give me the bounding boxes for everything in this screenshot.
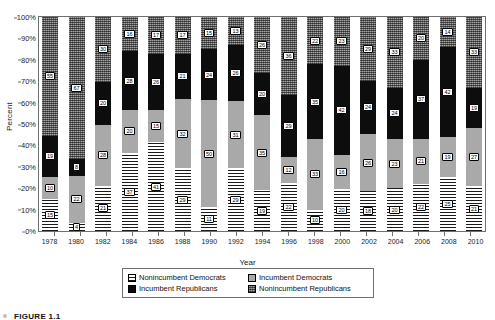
bar-segment-id: 26	[360, 134, 376, 191]
x-axis-tick-label: 2010	[468, 238, 484, 250]
bar-segment-value-label: 17	[177, 31, 187, 39]
x-axis-tick-label: 1996	[281, 238, 297, 250]
bar-segment-value-label: 35	[257, 149, 267, 157]
bar-segment-value-label: 20	[416, 34, 426, 42]
stacked-bar[interactable]: 36291222	[281, 17, 297, 231]
x-axis-tick-label: 1990	[201, 238, 217, 250]
bar-segment-nir: 36	[281, 17, 297, 95]
bar-segment-nid: 21	[95, 186, 111, 231]
bar-segment-nir: 15	[201, 17, 217, 49]
bar-segment-value-label: 26	[151, 78, 161, 86]
stacked-bar[interactable]: 30202821	[95, 17, 111, 231]
legend-label-incumbent-democrats: Incumbent Democrats	[259, 272, 332, 283]
bar-segment-value-label: 28	[124, 77, 134, 85]
bar-segment-value-label: 26	[257, 41, 267, 49]
y-axis-tick-label: 20%	[21, 184, 36, 193]
legend-row: Incumbent Republicans Nonincumbent Repub…	[128, 283, 368, 294]
bar-segment-value-label: 21	[416, 157, 426, 165]
stacked-bar[interactable]: 22353310	[307, 17, 323, 231]
legend-label-nonincumbent-republicans: Nonincumbent Republicans	[259, 283, 351, 294]
stacked-bar[interactable]: 16282037	[122, 17, 138, 231]
bar-segment-value-label: 29	[177, 196, 187, 204]
x-axis-tick-label: 1988	[175, 238, 191, 250]
x-axis-tick-mark	[132, 232, 133, 236]
stacked-bar[interactable]: 29242618	[360, 17, 376, 231]
bar-segment-ir: 37	[413, 60, 429, 139]
x-axis-tick-mark	[236, 232, 237, 236]
legend-item-nonincumbent-democrats: Nonincumbent Democrats	[128, 272, 248, 283]
bar-segment-nir: 33	[466, 17, 482, 88]
x-axis-tick-mark	[184, 232, 185, 236]
y-axis-tick-label: 80%	[21, 55, 36, 64]
bar-segment-id: 16	[334, 155, 350, 189]
bar-segment-value-label: 14	[442, 28, 452, 36]
bar-segment-value-label: 19	[257, 207, 267, 215]
bar-segment-nid: 11	[201, 207, 217, 231]
bar-segment-id: 23	[387, 139, 403, 188]
bar-segment-value-label: 29	[283, 122, 293, 130]
stacked-bar[interactable]: 678224	[69, 17, 85, 231]
bar-segment-nid: 25	[440, 177, 456, 231]
y-axis-tick-mark	[18, 124, 21, 125]
y-axis-tick-mark	[18, 38, 21, 39]
bar-segment-value-label: 4	[73, 223, 80, 231]
bar-segment-value-label: 24	[204, 71, 214, 79]
bar-segment-value-label: 26	[230, 69, 240, 77]
stacked-bar[interactable]: 33192721	[466, 17, 482, 231]
stacked-bar[interactable]: 26203519	[254, 17, 270, 231]
bar-segment-value-label: 17	[151, 31, 161, 39]
chart-legend: Nonincumbent Democrats Incumbent Democra…	[122, 268, 374, 298]
stacked-bar[interactable]: 13263129	[228, 17, 244, 231]
bar-segment-nid: 29	[175, 168, 191, 231]
bar-segment-id: 10	[42, 177, 58, 199]
bar-segment-value-label: 8	[73, 163, 80, 171]
bar-segment-nir: 67	[69, 17, 85, 159]
bar-segment-value-label: 31	[230, 131, 240, 139]
bar-segment-value-label: 36	[283, 52, 293, 60]
stacked-bar[interactable]: 15245011	[201, 17, 217, 231]
stacked-bar[interactable]: 17213229	[175, 17, 191, 231]
stacked-bar[interactable]: 14421925	[440, 17, 456, 231]
bar-segment-ir: 21	[175, 54, 191, 99]
x-axis-tick-mark	[392, 232, 393, 236]
bar-segment-value-label: 20	[98, 99, 108, 107]
bar-segment-value-label: 37	[124, 188, 134, 196]
bar-segment-value-label: 37	[416, 95, 426, 103]
bar-segment-id: 12	[281, 157, 297, 183]
bar-segment-nir: 17	[175, 17, 191, 54]
x-axis-tick-mark	[444, 232, 445, 236]
stacked-bar[interactable]: 23421620	[334, 17, 350, 231]
bar-segment-nir: 55	[42, 17, 58, 136]
bar-segment-value-label: 22	[71, 195, 81, 203]
bar-segment-value-label: 20	[389, 206, 399, 214]
stacked-bar[interactable]: 55191015	[42, 17, 58, 231]
bar-segment-value-label: 55	[45, 72, 55, 80]
x-axis-tick-mark	[210, 232, 211, 236]
x-axis-label: Year	[0, 258, 495, 267]
bar-segment-value-label: 22	[283, 203, 293, 211]
bar-segment-id: 20	[122, 110, 138, 152]
x-axis-tick-label: 2004	[388, 238, 404, 250]
bar-segment-nir: 23	[334, 17, 350, 66]
bar-segment-value-label: 11	[204, 215, 214, 223]
bar-segment-value-label: 16	[336, 168, 346, 176]
bar-segment-value-label: 10	[310, 216, 320, 224]
x-axis-tick-mark	[288, 232, 289, 236]
bar-segment-id: 22	[69, 176, 85, 223]
bar-segment-ir: 20	[254, 73, 270, 116]
bar-segment-ir: 35	[307, 64, 323, 139]
y-axis-tick-label: 40%	[21, 141, 36, 150]
x-axis-tick-mark	[106, 232, 107, 236]
bar-segment-value-label: 50	[204, 150, 214, 158]
bar-segment-value-label: 24	[389, 109, 399, 117]
stacked-bar[interactable]: 20372122	[413, 17, 429, 231]
y-axis-tick-label: 70%	[21, 77, 36, 86]
x-axis-tick-label: 1982	[95, 238, 111, 250]
y-axis-tick-label: 60%	[21, 98, 36, 107]
bar-segment-ir: 28	[122, 51, 138, 110]
bar-segment-value-label: 29	[230, 196, 240, 204]
y-axis-tick-mark	[18, 60, 21, 61]
bar-segment-value-label: 21	[177, 72, 187, 80]
stacked-bar[interactable]: 33242320	[387, 17, 403, 231]
stacked-bar[interactable]: 17261541	[148, 17, 164, 231]
